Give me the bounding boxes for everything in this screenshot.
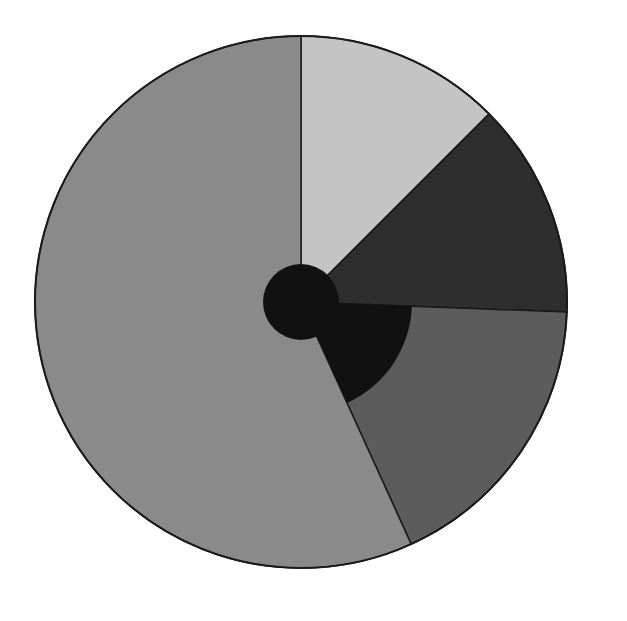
pie-chart — [0, 0, 627, 621]
